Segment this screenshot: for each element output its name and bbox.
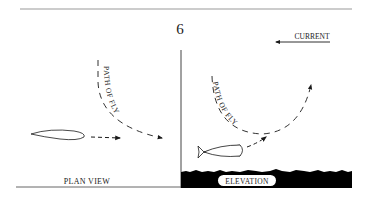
fly-path-diagram: 6 PATH OF FLY PLAN VIEW CURRENT PATH OF … bbox=[0, 0, 374, 204]
elevation-path-label: PATH OF FLY bbox=[211, 81, 240, 128]
elevation-panel: CURRENT PATH OF FLY ELEVATION bbox=[181, 32, 352, 188]
elevation-caption: ELEVATION bbox=[225, 177, 269, 186]
elevation-fly-body bbox=[204, 145, 243, 157]
plan-view-panel: PATH OF FLY PLAN VIEW bbox=[16, 60, 181, 187]
plan-fly-direction-arrow bbox=[91, 137, 120, 138]
page-number: 6 bbox=[176, 21, 184, 37]
current-label: CURRENT bbox=[294, 32, 329, 41]
plan-view-caption: PLAN VIEW bbox=[64, 177, 110, 186]
plan-fly-icon bbox=[31, 130, 84, 140]
plan-path-label: PATH OF FLY bbox=[102, 66, 122, 116]
elevation-fly-direction-arrow bbox=[247, 137, 266, 147]
